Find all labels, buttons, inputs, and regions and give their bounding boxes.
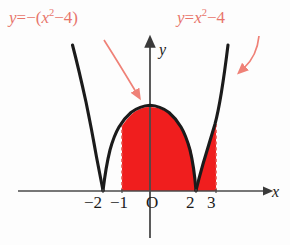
equation-label-right: y=x2−4 [177, 7, 225, 28]
tick-label-neg1: −1 [110, 193, 128, 213]
x-axis-label: x [272, 183, 279, 201]
figure-canvas [0, 0, 290, 245]
label-right-x: x [194, 8, 202, 27]
tick-label-2: 2 [186, 193, 195, 213]
shaded-area-left [122, 107, 196, 191]
tick-label-neg2: −2 [84, 193, 102, 213]
math-figure: y=−(x2−4) y=x2−4 y x −2 −1 O 2 3 [0, 0, 290, 245]
label-left-minus: − [26, 8, 36, 27]
label-right-y: y [177, 8, 185, 27]
y-axis-label: y [159, 41, 166, 59]
shaded-area-group [122, 107, 216, 191]
curve-x2-minus-4-left-branch [73, 45, 104, 191]
label-left-close-paren: ) [72, 8, 78, 27]
annotation-arrows-group [104, 36, 259, 92]
label-right-four: 4 [217, 8, 226, 27]
tick-label-3: 3 [207, 193, 216, 213]
label-left-equals: = [17, 8, 27, 27]
label-left-y: y [9, 8, 17, 27]
tick-label-origin: O [146, 193, 158, 213]
label-left-x: x [41, 8, 49, 27]
label-right-minus: − [207, 8, 217, 27]
label-left-minus-2: − [54, 8, 64, 27]
label-right-equals: = [185, 8, 195, 27]
annotation-arrow-right [244, 36, 259, 68]
equation-label-left: y=−(x2−4) [9, 7, 78, 28]
annotation-arrow-left [104, 40, 136, 92]
